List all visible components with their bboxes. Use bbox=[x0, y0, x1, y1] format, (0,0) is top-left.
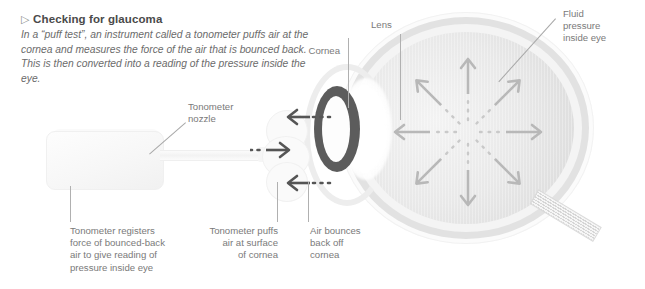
label-tonometer-nozzle: Tonometer nozzle bbox=[188, 101, 260, 125]
figure-title-text: Checking for glaucoma bbox=[33, 13, 162, 25]
label-fluid-pressure: Fluid pressure inside eye bbox=[563, 8, 639, 45]
caption-tonometer-registers: Tonometer registers force of bounced-bac… bbox=[70, 225, 190, 274]
leader-lens bbox=[400, 34, 401, 120]
glaucoma-figure: ▷Checking for glaucoma In a “puff test”,… bbox=[0, 0, 645, 289]
leader-cornea bbox=[348, 38, 349, 108]
air-arrow-bounce-upper bbox=[288, 110, 330, 124]
label-lens: Lens bbox=[371, 19, 415, 31]
fluid-pressure-arrows bbox=[338, 12, 594, 244]
triangle-right-icon: ▷ bbox=[21, 13, 29, 26]
air-arrow-puff-out bbox=[250, 143, 289, 157]
eye-diagram bbox=[338, 12, 594, 244]
air-arrow-bounce-lower bbox=[288, 176, 330, 190]
caption-tonometer-puffs: Tonometer puffs air at surface of cornea bbox=[196, 225, 278, 262]
caption-air-bounces: Air bounces back off cornea bbox=[310, 225, 386, 262]
figure-title: ▷Checking for glaucoma bbox=[21, 13, 162, 26]
leader-caption-registers bbox=[70, 186, 71, 222]
leader-caption-puffs bbox=[277, 182, 278, 222]
tonometer-body bbox=[46, 131, 164, 190]
leader-caption-bounces bbox=[308, 182, 309, 222]
label-cornea: Cornea bbox=[292, 45, 340, 57]
air-flow-arrows bbox=[250, 100, 370, 210]
figure-intro-text: In a “puff test”, an instrument called a… bbox=[21, 28, 321, 86]
